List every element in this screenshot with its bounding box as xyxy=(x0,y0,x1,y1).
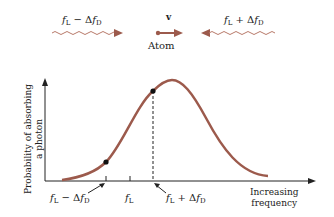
incoming-photon-left-wave xyxy=(52,32,118,35)
tick-label-center: fL xyxy=(125,192,133,205)
atom-label: Atom xyxy=(148,40,175,51)
left-wave-arrowhead xyxy=(114,29,123,37)
right-wave-arrowhead xyxy=(201,29,210,37)
velocity-label: v xyxy=(166,12,171,22)
right-photon-label: fL + ΔfD xyxy=(224,14,264,27)
point-low xyxy=(103,159,108,164)
tick-label-left: fL − ΔfD xyxy=(50,192,90,205)
velocity-arrowhead xyxy=(174,29,183,37)
y-axis-label: Probability of absorbing a photon xyxy=(23,83,45,195)
x-axis-label: Increasing frequency xyxy=(250,187,298,209)
incoming-photon-right-wave xyxy=(209,32,275,35)
left-photon-label: fL − ΔfD xyxy=(62,14,102,27)
point-high xyxy=(150,88,155,93)
x-axis-arrowhead xyxy=(308,178,316,184)
tick-label-right: fL + ΔfD xyxy=(166,192,206,205)
absorption-curve xyxy=(62,80,268,180)
diagram-canvas xyxy=(0,0,334,217)
